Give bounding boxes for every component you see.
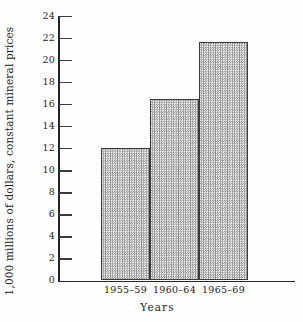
y-tick-mark — [59, 82, 72, 83]
bar — [101, 148, 150, 280]
y-tick-mark — [59, 170, 72, 171]
y-tick-label: 16 — [33, 99, 55, 109]
y-tick-mark — [59, 214, 72, 215]
y-tick-mark — [59, 60, 72, 61]
y-tick-mark — [59, 236, 72, 237]
bar — [199, 42, 248, 281]
y-tick-mark — [59, 148, 72, 149]
y-tick-label: 0 — [33, 275, 55, 285]
y-tick-label: 14 — [33, 121, 55, 131]
x-axis-line — [58, 281, 295, 283]
y-tick-mark — [59, 38, 72, 39]
x-axis-tick-labels: 1955–591960–641965–69 — [58, 284, 295, 298]
plot-area: 024681012141618202224 — [58, 16, 295, 282]
y-tick-label: 4 — [33, 231, 55, 241]
y-tick-mark — [59, 126, 72, 127]
y-tick-label: 8 — [33, 187, 55, 197]
y-tick-label: 22 — [33, 33, 55, 43]
y-tick-mark — [59, 104, 72, 105]
bar — [150, 99, 199, 281]
x-tick-label: 1965–69 — [190, 284, 257, 295]
y-tick-label: 10 — [33, 165, 55, 175]
y-tick-label: 12 — [33, 143, 55, 153]
y-tick-label: 18 — [33, 77, 55, 87]
y-tick-mark — [59, 16, 72, 17]
bar-chart-figure: 1,000 millions of dollars, constant mine… — [0, 0, 303, 322]
y-axis-title: 1,000 millions of dollars, constant mine… — [0, 0, 18, 322]
y-tick-mark — [59, 192, 72, 193]
y-tick-label: 6 — [33, 209, 55, 219]
y-tick-label: 24 — [33, 11, 55, 21]
x-axis-title: Years — [58, 301, 257, 313]
y-tick-label: 20 — [33, 55, 55, 65]
y-tick-label: 2 — [33, 253, 55, 263]
y-tick-mark — [59, 258, 72, 259]
